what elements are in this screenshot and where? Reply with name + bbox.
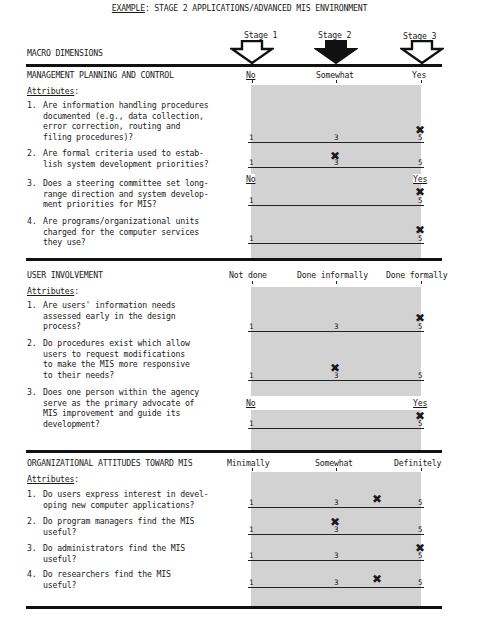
anchor-mid: Done informally	[297, 270, 368, 280]
question-number: 1.	[27, 100, 36, 111]
attributes-label: Attributes:	[27, 86, 79, 96]
hollow-down-arrow-icon	[400, 40, 444, 64]
question-text: Do researchers find the MIS useful?	[43, 569, 171, 590]
scale-label-1: 1	[249, 552, 254, 560]
anchor-low: No	[246, 70, 255, 80]
attributes-label: Attributes:	[27, 286, 79, 296]
attributes-label: Attributes:	[27, 474, 79, 484]
scale-label-1: 1	[249, 372, 254, 380]
anchor-tick	[421, 468, 422, 471]
question-number: 2.	[27, 148, 36, 159]
rating-scale-line	[248, 534, 424, 535]
question-number: 3.	[27, 543, 36, 554]
scale-label-3: 3	[334, 499, 339, 507]
example-label: EXAMPLE	[112, 3, 145, 13]
hollow-down-arrow-icon	[230, 40, 274, 64]
anchor-low: Not done	[229, 270, 267, 280]
anchor-low: Minimally	[227, 458, 270, 468]
rating-scale-line	[248, 507, 424, 508]
rating-scale-line	[248, 142, 424, 143]
scale-label-5: 5	[418, 526, 423, 534]
rating-scale-line	[248, 380, 424, 381]
scale-label-1: 1	[249, 420, 254, 428]
anchor-tick	[421, 281, 422, 284]
section-divider	[26, 450, 442, 453]
anchor-tick	[252, 281, 253, 284]
anchor-tick	[252, 80, 253, 83]
section-title: MANAGEMENT PLANNING AND CONTROL	[27, 70, 174, 80]
question-text: Are formal criteria used to estab- lish …	[43, 148, 209, 169]
rating-scale-line	[248, 560, 424, 561]
anchor-high: Definitely	[394, 458, 441, 468]
anchor-low: No	[246, 174, 255, 184]
anchor-tick	[421, 80, 422, 83]
macro-dimensions-label: MACRO DIMENSIONS	[27, 48, 103, 58]
anchor-mid: Somewhat	[316, 70, 354, 80]
section-divider	[26, 64, 442, 67]
scale-label-3: 3	[334, 579, 339, 587]
section-title: ORGANIZATIONAL ATTITUDES TOWARD MIS	[27, 458, 193, 468]
question-text: Do program managers find the MIS useful?	[43, 516, 194, 537]
filled-down-arrow-icon	[314, 40, 358, 64]
question-text: Does one person within the agency serve …	[43, 387, 199, 429]
rating-mark: ✖	[415, 542, 425, 554]
rating-mark: ✖	[415, 186, 425, 198]
scale-label-1: 1	[249, 197, 254, 205]
question-text: Do users express interest in devel- opin…	[43, 489, 209, 510]
question-number: 3.	[27, 387, 36, 398]
rating-mark: ✖	[330, 516, 340, 528]
stage-2-shaded-column	[251, 85, 421, 258]
rating-scale-line	[248, 331, 424, 332]
scale-label-1: 1	[249, 159, 254, 167]
question-text: Do procedures exist which allow users to…	[43, 338, 190, 380]
scale-label-3: 3	[334, 134, 339, 142]
rating-scale-line	[248, 243, 424, 244]
anchor-high: Yes	[413, 398, 427, 408]
anchor-high: Done formally	[386, 270, 447, 280]
question-number: 2.	[27, 516, 36, 527]
question-number: 4.	[27, 569, 36, 580]
scale-label-3: 3	[334, 323, 339, 331]
question-number: 1.	[27, 300, 36, 311]
scale-label-1: 1	[249, 134, 254, 142]
section-divider	[26, 258, 442, 261]
question-text: Are users' information needs assessed ea…	[43, 300, 175, 332]
question-number: 4.	[27, 216, 36, 227]
anchor-high: Yes	[412, 70, 426, 80]
rating-mark: ✖	[415, 410, 425, 422]
scale-label-3: 3	[334, 552, 339, 560]
scale-label-5: 5	[418, 499, 423, 507]
rating-mark: ✖	[415, 312, 425, 324]
rating-mark: ✖	[415, 224, 425, 236]
question-number: 2.	[27, 338, 36, 349]
scale-label-1: 1	[249, 579, 254, 587]
rating-mark: ✖	[330, 150, 340, 162]
anchor-low: No	[246, 398, 255, 408]
scale-label-1: 1	[249, 235, 254, 243]
anchor-band	[240, 396, 430, 410]
stage-2-label: Stage 2	[318, 30, 351, 40]
scale-label-1: 1	[249, 499, 254, 507]
question-text: Are information handling procedures docu…	[43, 100, 209, 142]
anchor-high: Yes	[413, 174, 427, 184]
section-divider	[26, 606, 442, 609]
question-text: Does a steering committee set long- rang…	[43, 178, 209, 210]
rating-mark: ✖	[415, 124, 425, 136]
rating-scale-line	[248, 428, 424, 429]
question-text: Do administrators find the MIS useful?	[43, 543, 185, 564]
question-number: 3.	[27, 178, 36, 189]
rating-mark: ✖	[330, 362, 340, 374]
section-title: USER INVOLVEMENT	[27, 270, 103, 280]
scale-label-5: 5	[418, 372, 423, 380]
scale-label-5: 5	[418, 159, 423, 167]
scale-label-5: 5	[418, 579, 423, 587]
rating-scale-line	[248, 587, 424, 588]
rating-scale-line	[248, 205, 424, 206]
page-title: EXAMPLE: STAGE 2 APPLICATIONS/ADVANCED M…	[0, 3, 479, 13]
question-text: Are programs/organizational units charge…	[43, 216, 199, 248]
scale-label-1: 1	[249, 323, 254, 331]
question-number: 1.	[27, 489, 36, 500]
anchor-tick	[336, 468, 337, 471]
scale-label-1: 1	[249, 526, 254, 534]
anchor-tick	[336, 80, 337, 83]
